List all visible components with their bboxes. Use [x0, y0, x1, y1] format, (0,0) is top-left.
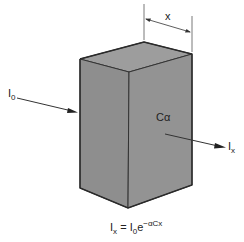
diagram-canvas [0, 0, 244, 242]
block-label-text: Cα [156, 111, 170, 123]
equation-rhs-subscript: 0 [133, 227, 137, 236]
block-right-face [128, 54, 192, 208]
dimension-label: x [165, 11, 171, 22]
dimension-arrowhead-left-icon [145, 19, 151, 23]
block-concentration-label: Cα [156, 112, 170, 123]
transmitted-arrowhead-icon [214, 143, 226, 149]
incident-intensity-label: I0 [8, 88, 16, 99]
block-left-face [80, 59, 129, 208]
incident-subscript: 0 [11, 93, 15, 102]
beer-lambert-equation: Ix = I0e−αCx [110, 222, 162, 233]
transmitted-intensity-label: Ix [228, 141, 235, 152]
equation-exponent: −αCx [143, 219, 162, 228]
incident-arrowhead-icon [67, 108, 78, 113]
dimension-x-text: x [165, 10, 171, 22]
dimension-arrowhead-right-icon [185, 29, 191, 33]
incident-beam-line [17, 98, 72, 111]
equation-equals: = [120, 221, 126, 233]
equation-lhs-subscript: x [113, 227, 117, 236]
transmitted-subscript: x [231, 146, 235, 155]
